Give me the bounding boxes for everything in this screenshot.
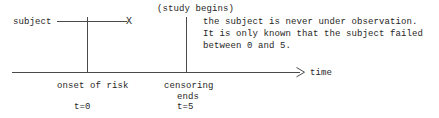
- censoring-ends-vertical-line: [186, 17, 187, 73]
- failure-x-marker: X: [126, 16, 132, 28]
- note-line-3: between 0 and 5.: [203, 40, 291, 52]
- onset-of-risk-time-label: t=0: [74, 101, 91, 113]
- onset-of-risk-vertical-line: [87, 17, 88, 73]
- time-axis-label: time: [310, 67, 332, 79]
- censoring-ends-time-label: t=5: [177, 101, 194, 113]
- study-begins-label: (study begins): [157, 3, 234, 15]
- note-line-2: It is only known that the subject failed: [203, 28, 423, 40]
- note-line-1: the subject is never under observation.: [203, 16, 418, 28]
- onset-of-risk-label: onset of risk: [57, 80, 129, 92]
- survival-timeline-diagram: subject X (study begins) the subject is …: [0, 0, 439, 118]
- subject-follow-up-line: [57, 21, 127, 22]
- arrow-right-icon: [296, 67, 306, 78]
- time-axis-line: [12, 72, 300, 73]
- subject-label: subject: [13, 16, 52, 28]
